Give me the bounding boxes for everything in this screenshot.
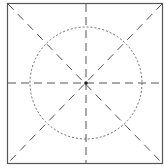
composition-guide-diagram	[0, 0, 164, 168]
center-point-icon	[84, 81, 88, 85]
diagram-svg	[0, 0, 164, 168]
